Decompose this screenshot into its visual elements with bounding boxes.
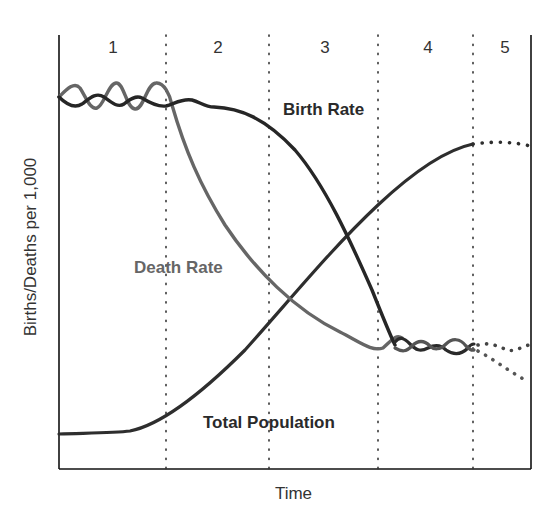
total-population-line xyxy=(59,144,473,434)
death-rate-label: Death Rate xyxy=(134,258,223,278)
death-rate-line xyxy=(59,83,402,349)
birth-rate-label: Birth Rate xyxy=(283,100,364,120)
stage-label-3: 3 xyxy=(305,38,345,58)
demographic-transition-chart xyxy=(0,0,557,522)
stage-label-1: 1 xyxy=(93,38,133,58)
x-axis-label: Time xyxy=(0,484,557,504)
total-population-projection xyxy=(473,142,530,146)
death-rate-projection xyxy=(478,351,527,381)
birth-rate-line xyxy=(59,95,395,345)
stage-label-5: 5 xyxy=(485,38,525,58)
stage-label-4: 4 xyxy=(408,38,448,58)
y-axis-label: Births/Deaths per 1,000 xyxy=(21,158,41,337)
total-population-label: Total Population xyxy=(203,413,335,433)
stage-label-2: 2 xyxy=(198,38,238,58)
birth-rate-projection xyxy=(478,344,530,351)
